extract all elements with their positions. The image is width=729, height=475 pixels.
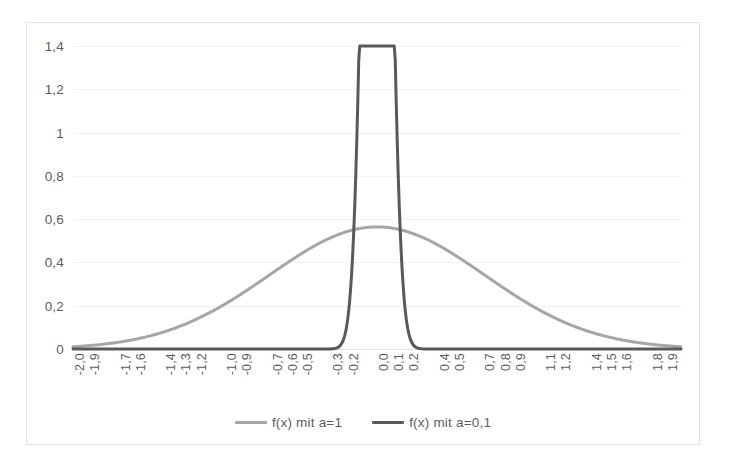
x-axis-tick-label: 0,2: [407, 353, 421, 371]
x-axis-tick-label: -1,7: [119, 353, 133, 375]
y-axis-tick-label: 0,2: [45, 298, 64, 313]
series-curves: [73, 46, 681, 349]
x-axis-tick-label: -0,9: [240, 353, 254, 375]
x-axis-tick-label: -2,0: [73, 353, 87, 375]
x-axis-tick-label: -0,3: [331, 353, 345, 375]
y-axis-tick-label: 1,4: [45, 39, 64, 54]
chart-frame: 00,20,40,60,811,21,4 -2,0-1,9-1,7-1,6-1,…: [26, 22, 700, 445]
legend-swatch-icon: [235, 421, 267, 424]
x-axis-tick-label: -1,2: [195, 353, 209, 375]
y-axis-tick-label: 1: [56, 125, 64, 140]
x-axis-tick-label: -1,3: [179, 353, 193, 375]
x-axis-tick-label: 0,0: [377, 353, 391, 371]
x-axis-tick-label: 0,1: [392, 353, 406, 371]
x-axis-tick-label: 1,1: [544, 353, 558, 371]
x-axis-tick-label: 1,9: [666, 353, 680, 371]
x-axis-tick-label: -1,4: [164, 353, 178, 375]
legend-item[interactable]: f(x) mit a=0,1: [372, 415, 491, 430]
y-axis-tick-label: 0,8: [45, 168, 64, 183]
legend-label: f(x) mit a=1: [272, 415, 342, 430]
y-axis-tick-label: 0,4: [45, 255, 64, 270]
plot-area: 00,20,40,60,811,21,4: [73, 46, 681, 349]
y-axis-tick-label: 0,6: [45, 212, 64, 227]
legend-item[interactable]: f(x) mit a=1: [235, 415, 342, 430]
x-axis-tick-label: -0,2: [347, 353, 361, 375]
x-axis-tick-label: -0,5: [301, 353, 315, 375]
x-axis-tick-label: -0,7: [271, 353, 285, 375]
x-axis-tick-label: 0,9: [514, 353, 528, 371]
legend-swatch-icon: [372, 421, 404, 424]
x-axis-tick-label: -1,0: [225, 353, 239, 375]
chart-legend: f(x) mit a=1f(x) mit a=0,1: [27, 415, 699, 430]
x-axis-tick-label: 1,5: [605, 353, 619, 371]
x-axis-tick-label: 0,8: [499, 353, 513, 371]
x-axis-tick-label: 1,2: [559, 353, 573, 371]
x-axis-tick-label: 0,7: [483, 353, 497, 371]
x-axis-tick-label: -1,9: [88, 353, 102, 375]
series-line: [73, 46, 681, 349]
legend-label: f(x) mit a=0,1: [409, 415, 491, 430]
x-axis-tick-label: 0,4: [438, 353, 452, 371]
x-axis-tick-label: 1,4: [590, 353, 604, 371]
x-axis-tick-label: 1,6: [620, 353, 634, 371]
x-axis-tick-labels: -2,0-1,9-1,7-1,6-1,4-1,3-1,2-1,0-0,9-0,7…: [73, 349, 681, 411]
x-axis-tick-label: -1,6: [134, 353, 148, 375]
y-axis-tick-label: 1,2: [45, 82, 64, 97]
x-axis-tick-label: 1,8: [651, 353, 665, 371]
series-line: [73, 227, 681, 347]
x-axis-tick-label: -0,6: [286, 353, 300, 375]
x-axis-tick-label: 0,5: [453, 353, 467, 371]
y-axis-tick-label: 0: [56, 342, 64, 357]
